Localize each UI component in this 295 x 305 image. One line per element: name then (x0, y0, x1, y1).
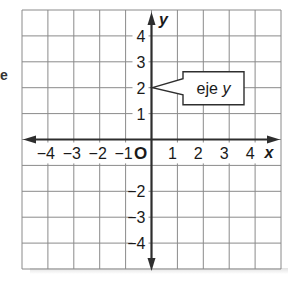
x-tick-label: −3 (63, 145, 81, 162)
x-tick-label: 2 (194, 145, 203, 162)
y-tick-label: −2 (127, 183, 145, 200)
x-tick-label: −1 (114, 145, 132, 162)
y-axis-label: y (158, 11, 169, 28)
callout-label: eje y (197, 80, 232, 97)
callout-text: eje (197, 80, 223, 97)
y-tick-label: 1 (137, 106, 146, 123)
x-tick-label: −4 (37, 145, 55, 162)
y-tick-label: 2 (137, 80, 146, 97)
coordinate-plane-figure: e −4−3−2−11234Ox4321−2−3−4yeje y (0, 0, 295, 305)
x-tick-label: 4 (246, 145, 255, 162)
x-axis-label: x (264, 144, 275, 161)
y-tick-label: −4 (127, 235, 145, 252)
callout-variable: y (221, 80, 231, 97)
y-tick-label: 4 (137, 28, 146, 45)
origin-label: O (134, 144, 147, 163)
y-tick-label: −3 (127, 209, 145, 226)
x-axis-right-arrow-icon (267, 136, 280, 144)
x-axis-left-arrow-icon (23, 136, 36, 144)
x-tick-label: 3 (220, 145, 229, 162)
x-tick-label: −2 (89, 145, 107, 162)
y-tick-label: 3 (137, 54, 146, 71)
coordinate-grid: −4−3−2−11234Ox4321−2−3−4yeje y (0, 0, 295, 305)
x-tick-label: 1 (168, 145, 177, 162)
